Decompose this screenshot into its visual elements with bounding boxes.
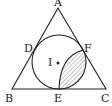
label-i: I <box>48 56 52 69</box>
label-b: B <box>5 92 13 105</box>
label-e: E <box>54 92 62 105</box>
label-a: A <box>53 0 63 9</box>
label-f: F <box>84 42 92 55</box>
label-d: D <box>24 42 33 55</box>
geometry-diagram: A B C D E F I <box>0 0 112 106</box>
label-c: C <box>101 92 109 105</box>
center-point-i <box>57 62 60 65</box>
shaded-region <box>59 50 86 89</box>
